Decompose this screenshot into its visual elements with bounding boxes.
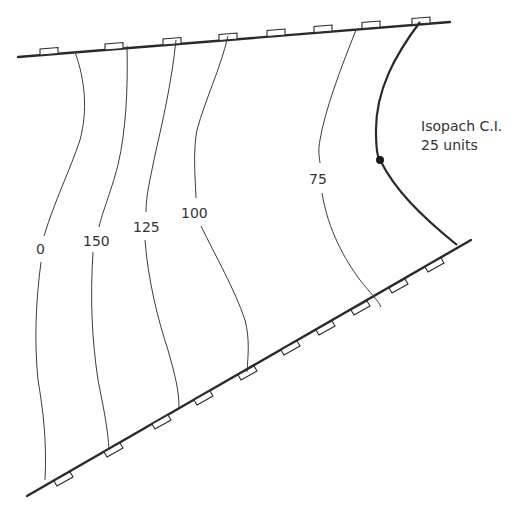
- contour-label-75: 75: [309, 171, 327, 187]
- note-line-1: Isopach C.I.: [421, 117, 502, 136]
- contour-label-100: 100: [181, 205, 208, 221]
- lower-fault: [27, 240, 471, 496]
- control-point-marker: [376, 156, 384, 164]
- contour-0: [36, 52, 85, 480]
- contour-label-150: 150: [83, 233, 110, 249]
- contour-100: [195, 36, 249, 372]
- contour-label-0: 0: [36, 241, 45, 257]
- contour-label-125: 125: [133, 219, 160, 235]
- upper-fault: [18, 17, 450, 57]
- lower-fault-ticks: [54, 258, 444, 486]
- isopach-diagram: 0 150 125 100 75: [0, 0, 530, 505]
- note-line-2: 25 units: [421, 136, 502, 155]
- contour-interval-note: Isopach C.I. 25 units: [421, 117, 502, 155]
- contour-75: [319, 30, 381, 307]
